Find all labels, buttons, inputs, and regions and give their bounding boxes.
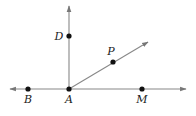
- point-M: [139, 86, 144, 91]
- point-P: [110, 59, 115, 64]
- point-label-B: B: [23, 93, 32, 106]
- point-label-M: M: [135, 93, 148, 106]
- point-D: [66, 33, 71, 38]
- geometry-diagram: ABMDP: [0, 0, 196, 116]
- point-A: [66, 86, 71, 91]
- point-label-D: D: [54, 30, 64, 43]
- point-label-A: A: [64, 93, 73, 106]
- point-label-P: P: [106, 45, 115, 58]
- point-B: [25, 86, 30, 91]
